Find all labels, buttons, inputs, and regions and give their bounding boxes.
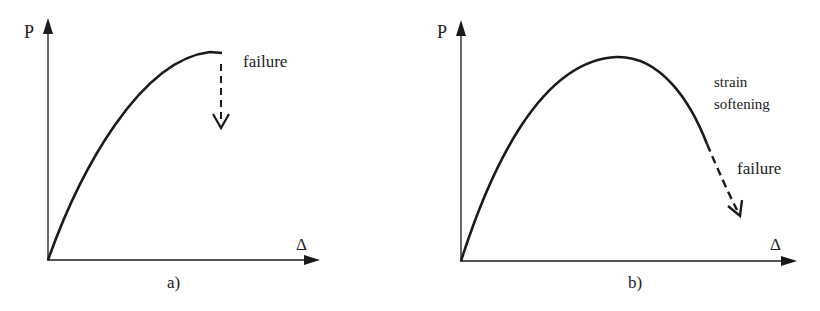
failure-label-a: failure: [243, 52, 287, 71]
x-axis-label-a: Δ: [296, 235, 307, 254]
strain-label-b: strain: [714, 74, 748, 90]
caption-b: b): [628, 273, 642, 292]
load-curve-a: [48, 52, 222, 260]
load-curve-b: [461, 57, 707, 261]
diagram: P Δ failure a) P Δ strain softening fail…: [0, 0, 820, 311]
failure-label-b: failure: [737, 159, 781, 178]
caption-a: a): [167, 273, 180, 292]
y-axis-label-a: P: [24, 22, 34, 42]
panel-a: P Δ failure a): [24, 18, 320, 292]
failure-arrow-b: [707, 144, 737, 210]
y-axis-label-b: P: [437, 22, 447, 42]
x-axis-arrowhead-a: [304, 255, 320, 265]
y-axis-arrowhead-b: [456, 20, 466, 36]
x-axis-arrowhead-b: [781, 256, 797, 266]
panel-b: P Δ strain softening failure b): [437, 20, 797, 292]
softening-label-b: softening: [714, 96, 770, 112]
y-axis-arrowhead-a: [43, 18, 53, 34]
x-axis-label-b: Δ: [770, 235, 781, 254]
